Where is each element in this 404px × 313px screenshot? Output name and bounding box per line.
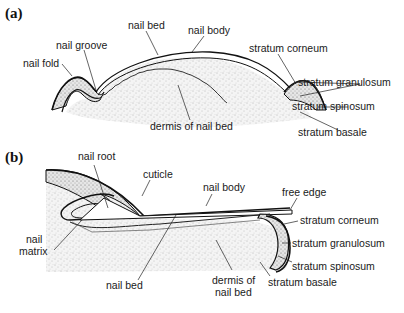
label-nail-body-b: nail body (203, 181, 246, 193)
label-stratum-corneum-a: stratum corneum (249, 42, 328, 54)
panel-a-tag: (a) (5, 5, 23, 22)
nail-anatomy-diagram: (a) nail bed nail body nail (0, 0, 404, 313)
panel-b: (b) nail ro (5, 149, 385, 298)
label-stratum-granulosum-b: stratum granulosum (292, 237, 385, 249)
label-nail-bed-b: nail bed (106, 279, 143, 291)
label-dermis-b-line1: dermis of (212, 274, 255, 286)
label-nail-body-a: nail body (188, 24, 231, 36)
label-stratum-basale-b: stratum basale (268, 276, 337, 288)
label-stratum-spinosum-b: stratum spinosum (292, 260, 375, 272)
panel-b-tag: (b) (5, 149, 23, 166)
label-nail-matrix-line2: matrix (19, 245, 48, 257)
label-free-edge: free edge (282, 186, 327, 198)
label-stratum-corneum-b: stratum corneum (300, 214, 379, 226)
label-stratum-spinosum-a: stratum spinosum (292, 100, 375, 112)
label-nail-bed-a: nail bed (128, 19, 165, 31)
label-nail-fold: nail fold (23, 57, 59, 69)
label-nail-root: nail root (78, 150, 115, 162)
label-stratum-basale-a: stratum basale (298, 126, 367, 138)
label-dermis-b-line2: nail bed (215, 286, 252, 298)
label-stratum-granulosum-a: stratum granulosum (298, 76, 391, 88)
label-cuticle: cuticle (143, 168, 173, 180)
panel-a: (a) nail bed nail body nail (5, 5, 391, 138)
label-dermis-a: dermis of nail bed (150, 120, 233, 132)
label-nail-matrix-line1: nail (26, 233, 42, 245)
label-nail-groove: nail groove (56, 39, 108, 51)
